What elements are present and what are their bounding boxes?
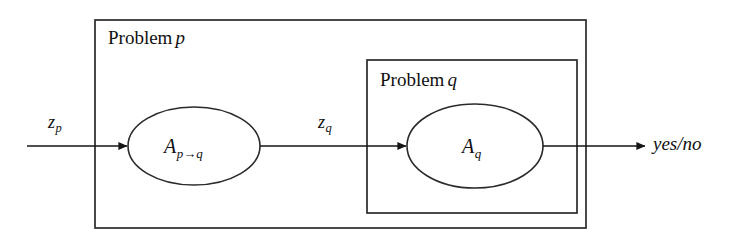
- outer-box-title-var: p: [172, 27, 185, 48]
- node-label-a-q: Aq: [462, 136, 481, 160]
- outer-box-title-text: Problem: [108, 27, 172, 48]
- node-label-a-p-to-q-sub: p→q: [176, 146, 203, 161]
- inner-box-title-text: Problem: [380, 69, 444, 90]
- node-label-a-q-sub: q: [474, 146, 481, 161]
- edge-label-zp-base: z: [48, 112, 55, 132]
- edge-label-zq-base: z: [318, 112, 325, 132]
- output-label-yes-no: yes/no: [653, 134, 702, 153]
- edge-label-zq: zq: [318, 113, 332, 135]
- edge-label-zp-sub: p: [55, 121, 62, 135]
- node-label-a-p-to-q-base: A: [164, 135, 176, 157]
- edge-label-zq-sub: q: [325, 121, 332, 135]
- edge-label-zp: zp: [48, 113, 62, 135]
- inner-box-title: Problemq: [380, 70, 457, 89]
- diagram-canvas: Problemp Problemq zp zq Ap→q Aq yes/no: [0, 0, 737, 247]
- node-label-a-p-to-q: Ap→q: [164, 136, 203, 160]
- outer-box-title: Problemp: [108, 28, 185, 47]
- node-label-a-q-base: A: [462, 135, 474, 157]
- inner-box-title-var: q: [444, 69, 457, 90]
